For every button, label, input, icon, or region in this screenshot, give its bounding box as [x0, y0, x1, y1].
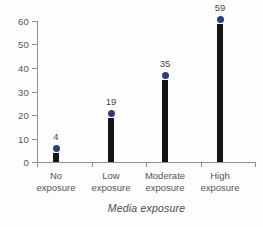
y-axis-tick-label: 30 [3, 88, 29, 98]
x-axis-tick [92, 163, 93, 167]
x-axis-tick [37, 163, 38, 167]
category-line-2: exposure [134, 182, 196, 194]
y-axis-line [37, 21, 38, 163]
y-axis-tick [32, 44, 37, 45]
y-axis-tick-label: 60 [3, 17, 29, 27]
data-label-moderate-exposure: 35 [150, 59, 180, 69]
y-axis-tick-label: 50 [3, 40, 29, 50]
x-axis-category-label-low-exposure: Low exposure [80, 170, 142, 193]
bar-no-exposure [53, 153, 59, 162]
y-axis-tick-label: 10 [3, 135, 29, 145]
y-axis-tick [32, 92, 37, 93]
bar-high-exposure [217, 24, 223, 162]
bar-moderate-exposure [162, 80, 168, 162]
bar-low-exposure [108, 118, 114, 162]
category-line-2: exposure [80, 182, 142, 194]
data-point-marker-moderate-exposure [162, 72, 169, 79]
category-line-2: exposure [25, 182, 87, 194]
data-label-no-exposure: 4 [41, 132, 71, 142]
x-axis-tick [201, 163, 202, 167]
category-line-1: No [25, 170, 87, 182]
category-line-1: Moderate [134, 170, 196, 182]
y-axis-tick-label: 0 [3, 158, 29, 168]
y-axis-tick [32, 115, 37, 116]
data-label-high-exposure: 59 [205, 3, 235, 13]
y-axis-tick [32, 139, 37, 140]
y-axis-tick [32, 21, 37, 22]
x-axis-category-label-high-exposure: High exposure [189, 170, 251, 193]
data-point-marker-low-exposure [108, 110, 115, 117]
data-point-marker-no-exposure [53, 145, 60, 152]
category-line-1: Low [80, 170, 142, 182]
y-axis-tick-label: 40 [3, 64, 29, 74]
category-line-2: exposure [189, 182, 251, 194]
y-axis-tick-label: 20 [3, 111, 29, 121]
x-axis-title: Media exposure [37, 202, 256, 214]
x-axis-tick [146, 163, 147, 167]
chart-container: 60 50 40 30 20 10 0 4 19 35 59 No exposu… [0, 0, 263, 227]
data-label-low-exposure: 19 [96, 97, 126, 107]
x-axis-tick [255, 163, 256, 167]
y-axis-tick [32, 68, 37, 69]
data-point-marker-high-exposure [217, 16, 224, 23]
category-line-1: High [189, 170, 251, 182]
x-axis-category-label-no-exposure: No exposure [25, 170, 87, 193]
x-axis-category-label-moderate-exposure: Moderate exposure [134, 170, 196, 193]
